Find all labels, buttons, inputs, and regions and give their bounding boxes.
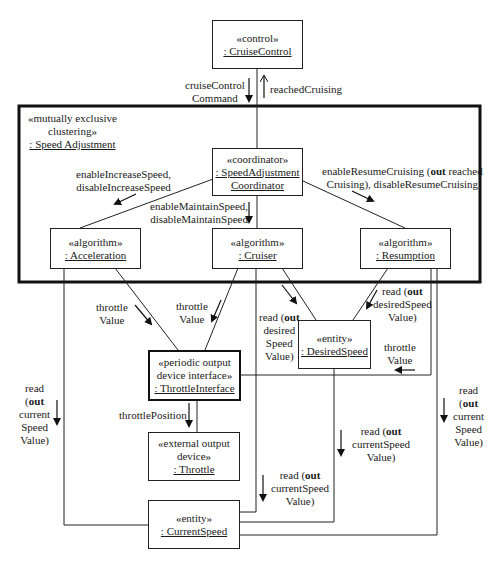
label-line: Value) <box>271 495 329 508</box>
message-resume-cruising: enableResumeCruising (out reached Cruisi… <box>322 165 483 191</box>
label-line: read (out <box>259 311 300 324</box>
label-line: read (out <box>271 469 329 482</box>
label-line: cruiseControl <box>185 79 245 92</box>
text: read ( <box>382 285 407 297</box>
label-line: Speed <box>19 421 50 434</box>
object-name: : SpeedAdjustment <box>215 166 299 179</box>
label-line: Value) <box>373 311 432 324</box>
object-name: : Cruiser <box>238 249 276 262</box>
message-cruise-control-command: cruiseControl Command <box>185 79 245 105</box>
label-line: read (out <box>352 425 410 438</box>
message-read-current-cruiser-upper: read (out currentSpeed Value) <box>352 425 410 464</box>
keyword: out <box>305 469 320 481</box>
label-line: Cruising), disableResumeCruising <box>322 178 483 191</box>
label-line: Speed <box>453 423 484 436</box>
label-line: throttle <box>384 341 416 354</box>
label-line: Value <box>384 354 416 367</box>
object-name: Coordinator <box>231 179 284 192</box>
stereotype: «external output <box>158 437 230 450</box>
object-name: : Throttle <box>173 463 214 476</box>
label-line: read (out <box>373 285 432 298</box>
message-throttle-value-accel: throttle Value <box>96 301 128 327</box>
label-line: Value <box>96 314 128 327</box>
keyword: out <box>463 397 478 409</box>
label-line: (out <box>453 397 484 410</box>
stereotype: «algorithm» <box>69 236 123 249</box>
desired-speed-object: «entity» : DesiredSpeed <box>298 320 371 369</box>
message-read-current-resumption: read (out current Speed Value) <box>453 384 484 449</box>
label-line: desired <box>259 324 300 337</box>
stereotype: device» <box>177 450 211 463</box>
stereotype: «entity» <box>176 512 212 525</box>
label-line: desiredSpeed <box>373 298 432 311</box>
stereotype: «algorithm» <box>379 236 433 249</box>
throttle-object: «external output device» : Throttle <box>148 432 240 481</box>
label-line: Value) <box>453 436 484 449</box>
text: reached <box>446 165 483 177</box>
label-line: current <box>19 408 50 421</box>
stereotype: «periodic output <box>158 356 230 369</box>
cruise-control-object: «control» : CruiseControl <box>212 20 303 69</box>
object-name: : Acceleration <box>65 249 126 262</box>
message-throttle-value-resumption: throttle Value <box>384 341 416 367</box>
stereotype: «algorithm» <box>231 236 285 249</box>
stereotype: «control» <box>236 32 278 45</box>
message-throttle-position: throttlePosition <box>119 409 187 422</box>
label-line: disableMaintainSpeed <box>150 213 248 226</box>
keyword: out <box>284 311 299 323</box>
label-line: Value) <box>19 434 50 447</box>
label-line: Value) <box>352 451 410 464</box>
stereotype: «entity» <box>316 332 352 345</box>
stereotype: device interface» <box>157 369 232 382</box>
message-increase-speed: enableIncreaseSpeed, disableIncreaseSpee… <box>76 168 171 194</box>
stereotype-line: «mutually exclusive <box>28 112 117 125</box>
text: read ( <box>280 469 305 481</box>
label-line: Speed <box>259 337 300 350</box>
text: enableResumeCruising ( <box>322 165 430 177</box>
current-speed-object: «entity» : CurrentSpeed <box>148 500 240 549</box>
label-line: currentSpeed <box>352 438 410 451</box>
label-line: throttle <box>96 301 128 314</box>
text: read ( <box>361 425 386 437</box>
message-read-current-accel: read (out current Speed Value) <box>19 382 50 447</box>
keyword: out <box>407 285 422 297</box>
keyword: out <box>386 425 401 437</box>
stereotype: «coordinator» <box>227 153 289 166</box>
label-line: Value <box>176 313 208 326</box>
cluster-name: : Speed Adjustment <box>28 138 117 151</box>
acceleration-object: «algorithm» : Acceleration <box>50 228 141 269</box>
cruiser-object: «algorithm» : Cruiser <box>212 228 303 269</box>
label-line: (out <box>19 395 50 408</box>
label-line: enableResumeCruising (out reached <box>322 165 483 178</box>
label-line: disableIncreaseSpeed <box>76 181 171 194</box>
connector-lines <box>0 0 499 562</box>
speed-adjustment-cluster-label: «mutually exclusive clustering» : Speed … <box>28 112 117 151</box>
message-maintain-speed: enableMaintainSpeed, disableMaintainSpee… <box>150 200 248 226</box>
label-line: read <box>453 384 484 397</box>
label-line: throttle <box>176 300 208 313</box>
label-line: read <box>19 382 50 395</box>
label-line: enableMaintainSpeed, <box>150 200 248 213</box>
object-name: : CurrentSpeed <box>161 525 227 538</box>
object-name: : CruiseControl <box>223 45 291 58</box>
object-name: : Resumption <box>376 249 435 262</box>
label-line: currentSpeed <box>271 482 329 495</box>
message-read-desired-cruiser: read (out desired Speed Value) <box>259 311 300 363</box>
object-name: : ThrottleInterface <box>154 382 234 395</box>
message-read-current-cruiser-lower: read (out currentSpeed Value) <box>271 469 329 508</box>
keyword: out <box>29 395 44 407</box>
stereotype-line: clustering» <box>28 125 117 138</box>
message-throttle-value-cruiser: throttle Value <box>176 300 208 326</box>
message-read-desired-resumption: read (out desiredSpeed Value) <box>373 285 432 324</box>
label-line: Value) <box>259 350 300 363</box>
coordinator-object: «coordinator» : SpeedAdjustment Coordina… <box>212 148 303 196</box>
message-reached-cruising: reachedCruising <box>270 83 342 96</box>
label-line: Command <box>185 92 245 105</box>
label-line: enableIncreaseSpeed, <box>76 168 171 181</box>
resumption-object: «algorithm» : Resumption <box>360 228 451 269</box>
text: read ( <box>259 311 284 323</box>
label-line: current <box>453 410 484 423</box>
object-name: : DesiredSpeed <box>301 345 368 358</box>
throttle-interface-object: «periodic output device interface» : Thr… <box>148 350 241 401</box>
keyword: out <box>430 165 445 177</box>
